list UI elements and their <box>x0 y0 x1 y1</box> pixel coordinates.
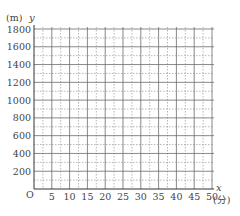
x-tick-label: 15 <box>81 191 93 202</box>
y-tick-label: 1200 <box>7 77 31 88</box>
x-tick-label: 35 <box>153 191 165 202</box>
y-tick-label: 200 <box>13 166 31 177</box>
y-tick-label: 1400 <box>7 59 31 70</box>
y-tick-label: 400 <box>13 148 31 159</box>
x-tick-label: 30 <box>135 191 147 202</box>
origin-label: O <box>26 189 34 200</box>
minor-grid <box>34 27 214 189</box>
y-unit-label: (m) <box>6 12 22 23</box>
y-tick-labels: 20040060080010001200140016001800 <box>7 24 31 177</box>
y-tick-label: 800 <box>13 112 31 123</box>
x-tick-label: 20 <box>99 191 111 202</box>
x-unit-label: (分) <box>213 194 230 205</box>
y-tick-label: 1600 <box>7 41 31 52</box>
coordinate-grid-chart: 5101520253035404550 20040060080010001200… <box>0 0 240 216</box>
y-tick-label: 1000 <box>7 95 31 106</box>
x-tick-label: 5 <box>49 191 55 202</box>
x-tick-labels: 5101520253035404550 <box>49 191 218 202</box>
x-tick-label: 45 <box>188 191 200 202</box>
x-axis-label: x <box>216 182 222 193</box>
x-tick-label: 40 <box>170 191 182 202</box>
x-tick-label: 10 <box>64 191 76 202</box>
y-axis-label: y <box>28 12 35 23</box>
axes <box>34 25 214 189</box>
y-tick-label: 600 <box>13 130 31 141</box>
y-tick-label: 1800 <box>7 24 31 35</box>
x-tick-label: 25 <box>117 191 129 202</box>
